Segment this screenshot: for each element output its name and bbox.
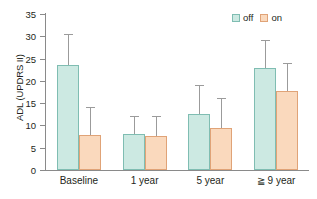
x-axis-label: ≧ 9 year (243, 175, 309, 186)
error-bar-line (68, 34, 69, 66)
bar-group (188, 14, 232, 170)
bar-off (57, 65, 79, 170)
error-bar-line (221, 98, 222, 128)
error-bar-cap (152, 116, 161, 117)
bar-on (145, 136, 167, 170)
error-bar-line (156, 116, 157, 137)
y-tick-label: 10 (12, 121, 36, 130)
legend-swatch-icon (232, 14, 240, 22)
error-bar-cap (217, 98, 226, 99)
y-tick-label: 20 (12, 77, 36, 86)
y-tick-mark (40, 170, 45, 171)
y-tick-mark (40, 14, 45, 15)
y-tick-label: 30 (12, 32, 36, 41)
y-tick-mark (40, 36, 45, 37)
error-bar-line (287, 63, 288, 91)
error-bar-cap (86, 107, 95, 108)
legend-item-off[interactable]: off (232, 12, 253, 23)
error-bar-line (265, 40, 266, 68)
y-tick-mark (40, 81, 45, 82)
error-bar-cap (64, 34, 73, 35)
error-bar-cap (130, 116, 139, 117)
legend-label: off (243, 12, 253, 23)
y-tick-label: 0 (12, 166, 36, 175)
legend-item-on[interactable]: on (260, 12, 282, 23)
y-tick-mark (40, 59, 45, 60)
y-tick-label: 15 (12, 99, 36, 108)
bar-chart: ADL (UPDRS II) 05101520253035 Baseline1 … (0, 0, 317, 199)
y-tick-label: 5 (12, 144, 36, 153)
error-bar-line (90, 107, 91, 135)
x-axis-label: 5 year (178, 175, 244, 186)
bar-off (123, 134, 145, 170)
y-tick-label: 35 (12, 10, 36, 19)
y-tick-mark (40, 148, 45, 149)
legend: offon (232, 12, 282, 23)
error-bar-line (134, 116, 135, 134)
x-axis-label: Baseline (46, 175, 112, 186)
bar-group (57, 14, 101, 170)
legend-label: on (271, 12, 282, 23)
x-axis-label: 1 year (112, 175, 178, 186)
bar-off (254, 68, 276, 170)
error-bar-line (199, 85, 200, 114)
plot-area (46, 14, 309, 170)
error-bar-cap (283, 63, 292, 64)
y-tick-mark (40, 103, 45, 104)
y-tick-mark (40, 125, 45, 126)
error-bar-cap (195, 85, 204, 86)
bar-on (210, 128, 232, 170)
legend-swatch-icon (260, 14, 268, 22)
y-tick-label: 25 (12, 55, 36, 64)
bar-off (188, 114, 210, 170)
error-bar-cap (261, 40, 270, 41)
bar-group (123, 14, 167, 170)
bar-group (254, 14, 298, 170)
bar-on (276, 91, 298, 170)
bar-on (79, 135, 101, 170)
x-axis-line (45, 170, 309, 171)
